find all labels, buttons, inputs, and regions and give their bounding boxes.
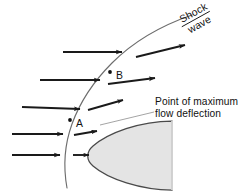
blunt-body	[88, 121, 172, 190]
point-a-marker	[68, 118, 72, 122]
point-a-label: A	[76, 118, 83, 129]
callout-label-line2: flow deflection	[155, 108, 221, 119]
streamline-deflected-3	[88, 100, 123, 110]
streamline-deflected-1	[136, 45, 185, 57]
streamline-incoming-3	[22, 107, 80, 109]
diagram-canvas: A B Shock wave Point of maximum flow def…	[0, 0, 246, 193]
shock-wave-label: Shock wave	[176, 0, 216, 37]
blunt-body-outline	[88, 121, 172, 190]
callout-label-line1: Point of maximum	[155, 96, 238, 107]
point-b-marker	[108, 70, 112, 74]
shock-wave-diagram: A B Shock wave Point of maximum flow def…	[0, 0, 246, 193]
max-deflection-callout: Point of maximum flow deflection	[155, 96, 238, 119]
streamline-deflected-4	[74, 131, 97, 135]
point-b-label: B	[116, 70, 123, 81]
